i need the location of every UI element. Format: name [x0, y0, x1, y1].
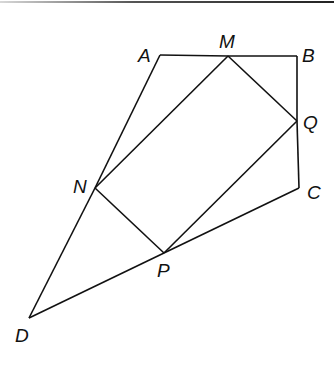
label-Q: Q — [303, 112, 318, 133]
segment-CP — [164, 188, 299, 253]
label-C: C — [307, 182, 321, 203]
segment-QM — [228, 56, 297, 121]
segment-QC — [297, 121, 299, 188]
vertex-labels: AMBQCNPD — [15, 31, 321, 346]
label-M: M — [219, 31, 235, 52]
label-P: P — [157, 260, 170, 281]
label-A: A — [137, 45, 151, 66]
segment-DN — [29, 188, 95, 318]
segment-NP — [95, 188, 164, 253]
segment-NA — [95, 55, 160, 188]
label-D: D — [15, 325, 29, 346]
segment-PD — [29, 253, 164, 318]
segment-AM — [160, 55, 228, 56]
geometry-figure: AMBQCNPD — [0, 0, 334, 366]
label-B: B — [302, 45, 315, 66]
segment-MN — [95, 56, 228, 188]
segment-PQ — [164, 121, 297, 253]
label-N: N — [73, 176, 87, 197]
